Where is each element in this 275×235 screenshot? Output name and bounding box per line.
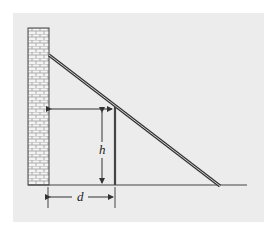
height-dimension: h [99,112,106,183]
ladder-diagram: h d [0,0,275,235]
distance-dimension: d [48,187,115,208]
distance-label: d [77,189,84,204]
height-label: h [99,142,106,157]
brick-wall [28,28,49,185]
ladder [49,55,220,186]
